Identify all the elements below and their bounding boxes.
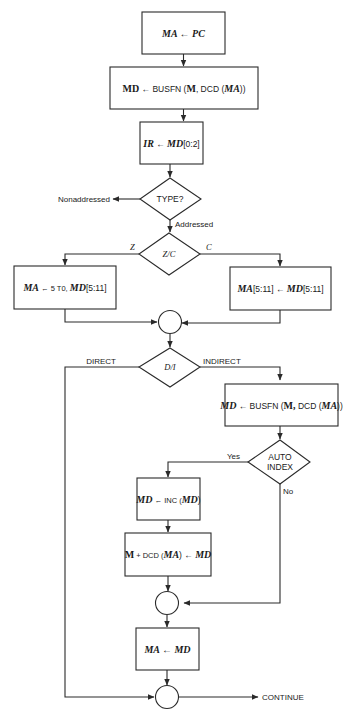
join-connector-2 (156, 592, 179, 615)
decision-di-label: D/I (163, 362, 177, 372)
decision-zc-label: Z/C (163, 249, 176, 259)
label-addressed: Addressed (175, 220, 213, 229)
box-read-memory-label: MD ← BUSFN (M, DCD (MA)) (123, 83, 246, 94)
arrow-join-c (182, 310, 280, 323)
decision-auto-label-2: INDEX (267, 462, 293, 472)
label-continue: CONTINUE (262, 693, 304, 702)
label-direct: DIRECT (86, 357, 116, 366)
box-ir-md-label: IR ← MD[0:2] (142, 138, 199, 149)
join-connector-1 (159, 311, 182, 334)
arrow-join-z (65, 309, 157, 322)
box-page-zero-label: MA ← 5 T0, MD[5:11] (22, 282, 106, 293)
flowchart: MA ← PC MD ← BUSFN (M, DCD (MA)) IR ← MD… (0, 0, 354, 716)
box-ma-md-label: MA ← MD (143, 644, 190, 655)
join-connector-3 (156, 686, 179, 709)
arrow-indirect (200, 367, 280, 380)
arrow-yes (168, 462, 248, 477)
box-current-page-label: MA[5:11] ← MD[5:11] (236, 283, 323, 294)
box-indirect-read-label: MD ← BUSFN (M, DCD (MA)) (219, 400, 343, 411)
label-yes: Yes (227, 452, 240, 461)
label-indirect: INDIRECT (203, 357, 241, 366)
label-z: Z (130, 242, 135, 252)
box-store-memory-label: M + DCD (MA) ← MD (125, 549, 212, 560)
decision-type-label: TYPE? (157, 194, 184, 204)
decision-auto-label-1: AUTO (268, 452, 292, 462)
box-ma-pc-label: MA ← PC (161, 28, 205, 39)
label-no: No (283, 487, 294, 496)
label-nonaddressed: Nonaddressed (58, 195, 110, 204)
label-c: C (206, 242, 212, 252)
arrow-c (200, 254, 280, 266)
box-increment-label: MD ← INC (MD) (135, 494, 200, 505)
arrow-z (65, 254, 139, 265)
